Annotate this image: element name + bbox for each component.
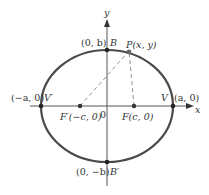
- y-axis-arrow-icon: [104, 19, 110, 27]
- focal-line-f-prime: [80, 51, 129, 106]
- f-label: F(c, 0): [121, 111, 154, 122]
- x-axis-arrow-icon: [186, 103, 194, 109]
- focal-line-f: [129, 51, 134, 106]
- point-v: [171, 104, 176, 109]
- b-prime-coord-label: (0, −b): [76, 166, 110, 177]
- p-label: P(x, y): [125, 39, 157, 50]
- point-p: [127, 50, 132, 55]
- y-axis-label: y: [103, 7, 110, 18]
- v-name-label: V: [161, 92, 169, 103]
- point-v-prime: [39, 104, 44, 109]
- ellipse-diagram: y x 0 (0, b) B P(x, y) (−a, 0) V′ V (a, …: [0, 0, 209, 195]
- point-f-prime: [78, 104, 82, 108]
- point-b: [105, 48, 110, 53]
- x-axis-label: x: [195, 104, 201, 115]
- b-coord-label: (0, b): [81, 37, 107, 48]
- v-prime-name-label: V′: [44, 92, 54, 103]
- b-name-label: B: [109, 37, 117, 48]
- point-f: [132, 104, 136, 108]
- v-prime-coord-label: (−a, 0): [11, 92, 44, 103]
- b-prime-name-label: B′: [109, 166, 120, 177]
- f-prime-label: F′(−c, 0): [59, 111, 102, 122]
- point-b-prime: [105, 160, 110, 165]
- v-coord-label: (a, 0): [174, 92, 199, 103]
